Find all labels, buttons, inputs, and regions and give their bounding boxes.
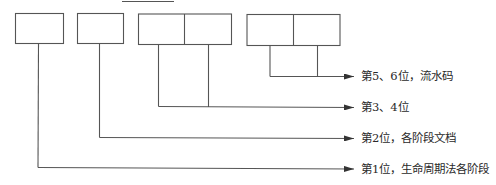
label-digit-1: 第1位，生命周期法各阶段 — [361, 162, 489, 176]
connector-5-6 — [270, 46, 354, 77]
connector-2 — [100, 44, 355, 139]
label-digit-2: 第2位，各阶段文档 — [361, 131, 456, 145]
digit-box-1 — [16, 14, 64, 44]
label-digits-3-4: 第3、4位 — [361, 100, 409, 114]
label-digits-5-6: 第5、6位，流水码 — [361, 69, 453, 83]
digit-box-2 — [78, 14, 124, 44]
code-structure-diagram — [0, 0, 496, 185]
